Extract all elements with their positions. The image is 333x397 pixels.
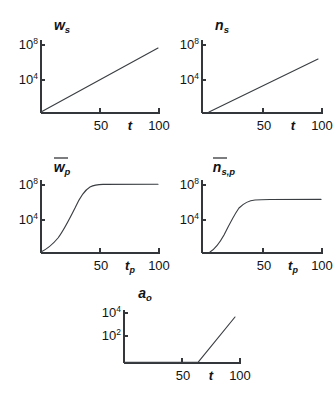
xaxis-label-ws: t xyxy=(128,118,133,133)
ytick-label-lower-ns: 104 xyxy=(180,71,199,87)
xtick-label-100-nsp: 100 xyxy=(311,258,333,273)
panel-title-a0: ao xyxy=(138,285,152,303)
xaxis-label-a0: t xyxy=(209,368,214,383)
ytick-label-lower-wp: 104 xyxy=(19,211,38,227)
ytick-label-lower-a0: 102 xyxy=(102,327,121,343)
chart-panel-a0: ao 104 102 50 t 100 xyxy=(83,284,251,397)
chart-svg-a0: ao 104 102 50 t 100 xyxy=(83,284,251,397)
xtick-label-50-nsp: 50 xyxy=(257,258,271,273)
xaxis-label-nsp: tp xyxy=(288,258,298,275)
ytick-label-lower-ws: 104 xyxy=(19,71,38,87)
chart-panel-ws: ws 108 104 50 t 100 xyxy=(0,8,168,136)
chart-svg-ns: ns 108 104 50 t 100 xyxy=(166,8,333,136)
panel-title-wp-bar: wp xyxy=(54,159,71,177)
ytick-label-upper-ns: 108 xyxy=(180,36,199,52)
xtick-label-100-ns: 100 xyxy=(311,118,333,133)
multi-panel-figure: ws 108 104 50 t 100 xyxy=(0,0,333,397)
panel-title-ws: ws xyxy=(54,17,70,35)
xtick-label-50-ns: 50 xyxy=(257,118,271,133)
xtick-label-50-wp: 50 xyxy=(94,258,108,273)
data-line-ws xyxy=(41,48,158,112)
ytick-label-upper-ws: 108 xyxy=(19,36,38,52)
chart-panel-ns: ns 108 104 50 t 100 xyxy=(166,8,333,136)
chart-panel-nsp-bar: ns,p 108 104 50 tp 100 xyxy=(166,148,333,276)
xtick-label-100-a0: 100 xyxy=(229,368,251,383)
chart-svg-wp-bar: wp 108 104 50 tp 100 xyxy=(0,148,168,276)
xtick-label-50-ws: 50 xyxy=(94,118,108,133)
ytick-label-upper-nsp: 108 xyxy=(180,176,199,192)
chart-svg-nsp-bar: ns,p 108 104 50 tp 100 xyxy=(166,148,333,276)
panel-title-nsp-bar: ns,p xyxy=(213,159,235,177)
data-curve-nsp xyxy=(210,199,321,252)
xaxis-label-ns: t xyxy=(291,118,296,133)
ytick-label-upper-wp: 108 xyxy=(19,176,38,192)
chart-svg-ws: ws 108 104 50 t 100 xyxy=(0,8,168,136)
ytick-label-lower-nsp: 104 xyxy=(180,211,199,227)
data-line-ns xyxy=(209,59,318,112)
ytick-label-upper-a0: 104 xyxy=(102,304,121,320)
panel-title-ns: ns xyxy=(215,17,229,35)
xaxis-label-wp: tp xyxy=(125,258,135,275)
chart-panel-wp-bar: wp 108 104 50 tp 100 xyxy=(0,148,168,276)
xtick-label-50-a0: 50 xyxy=(176,368,190,383)
data-curve-wp xyxy=(41,184,158,252)
data-curve-a0 xyxy=(124,317,235,362)
